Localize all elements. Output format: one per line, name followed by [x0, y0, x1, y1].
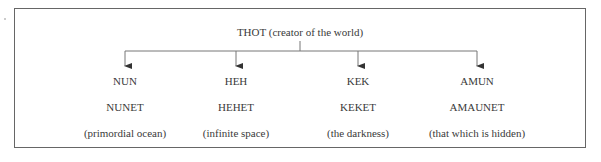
meaning-nun: (primordial ocean) — [84, 127, 166, 139]
meaning-heh: (infinite space) — [203, 127, 269, 139]
consort-hehet: HEHET — [218, 101, 254, 113]
node-nun: NUN — [113, 75, 137, 87]
node-heh: HEH — [225, 75, 248, 87]
consort-amaunet: AMAUNET — [450, 101, 505, 113]
node-kek: KEK — [347, 75, 370, 87]
node-amun: AMUN — [460, 75, 494, 87]
consort-keket: KEKET — [340, 101, 376, 113]
meaning-kek: (the darkness) — [327, 127, 389, 139]
consort-nunet: NUNET — [106, 101, 143, 113]
root-node-thot: THOT (creator of the world) — [237, 26, 363, 38]
meaning-amun: (that which is hidden) — [429, 127, 525, 139]
